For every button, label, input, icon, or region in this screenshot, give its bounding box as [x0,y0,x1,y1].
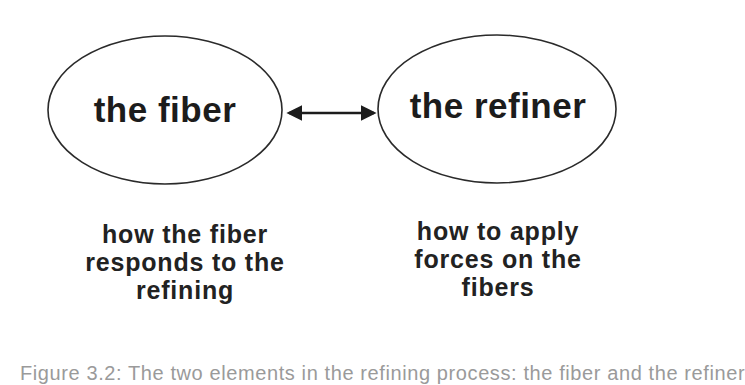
refiner-node-label: the refiner [378,86,618,126]
fiber-description-line: how the fiber [45,220,325,248]
fiber-description-line: refining [45,276,325,304]
fiber-description: how the fiber responds to the refining [45,220,325,304]
refiner-description-line: forces on the [368,245,628,273]
refiner-description-line: how to apply [368,217,628,245]
fiber-description-line: responds to the [45,248,325,276]
fiber-node-label: the fiber [48,90,282,130]
refiner-description: how to apply forces on the fibers [368,217,628,301]
figure-caption: Figure 3.2: The two elements in the refi… [20,362,745,385]
refiner-description-line: fibers [368,273,628,301]
